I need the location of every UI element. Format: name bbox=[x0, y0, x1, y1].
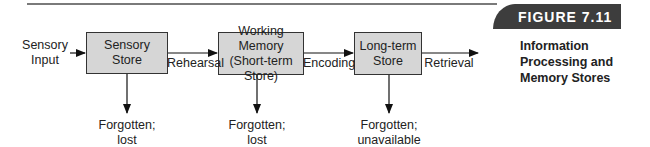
working-outcome-label: Forgotten; lost bbox=[227, 118, 287, 147]
rehearsal-label: Rehearsal bbox=[167, 56, 219, 71]
long-term-store-label: Long-term Store bbox=[357, 39, 419, 69]
sensory-input-label: Sensory Input bbox=[20, 38, 70, 68]
retrieval-label: Retrieval bbox=[422, 56, 476, 71]
encoding-label: Encoding bbox=[303, 56, 355, 71]
working-memory-label: Working Memory (Short-term Store) bbox=[219, 24, 303, 84]
working-memory-box: Working Memory (Short-term Store) bbox=[218, 32, 304, 75]
sensory-store-box: Sensory Store bbox=[86, 32, 168, 74]
sensory-store-label: Sensory Store bbox=[97, 38, 157, 68]
long-term-store-box: Long-term Store bbox=[354, 32, 422, 75]
sensory-outcome-label: Forgotten; lost bbox=[97, 118, 157, 147]
longterm-outcome-label: Forgotten; unavailable bbox=[354, 118, 424, 147]
